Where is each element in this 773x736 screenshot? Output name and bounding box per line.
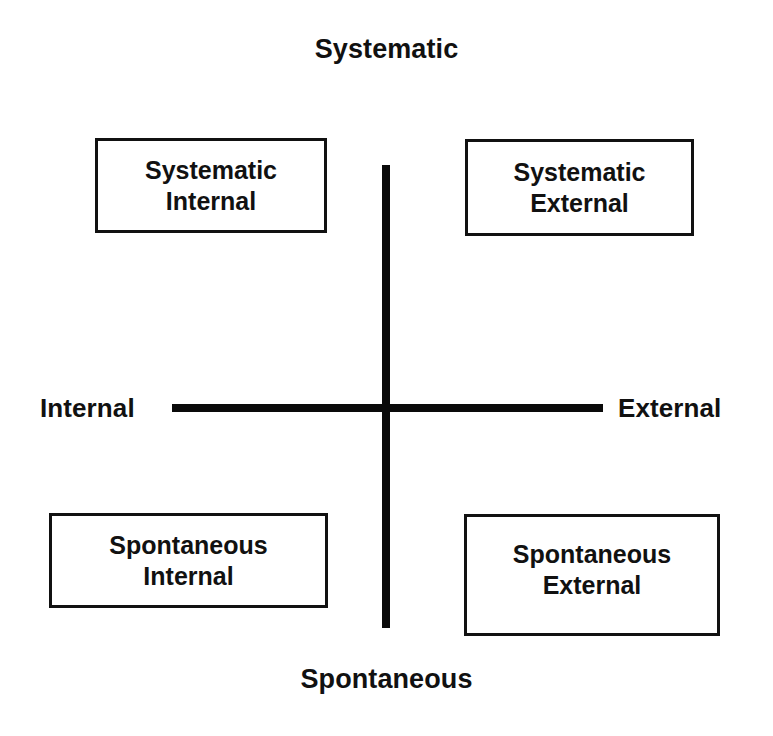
- axis-label-top: Systematic: [0, 33, 773, 65]
- quadrant-label-systematic-external: Systematic External: [507, 157, 651, 219]
- horizontal-axis-line: [172, 404, 603, 412]
- quadrant-box-systematic-external: Systematic External: [465, 139, 694, 236]
- axis-label-left: Internal: [40, 392, 135, 424]
- axis-label-right: External: [618, 392, 721, 424]
- quadrant-box-spontaneous-internal: Spontaneous Internal: [49, 513, 328, 608]
- quadrant-diagram: Systematic Spontaneous Internal External…: [0, 0, 773, 736]
- quadrant-label-spontaneous-internal: Spontaneous Internal: [103, 530, 273, 592]
- quadrant-label-systematic-internal: Systematic Internal: [139, 155, 283, 217]
- axis-label-bottom: Spontaneous: [0, 663, 773, 695]
- quadrant-label-spontaneous-external: Spontaneous External: [507, 539, 677, 601]
- vertical-axis-line: [382, 165, 390, 628]
- quadrant-box-systematic-internal: Systematic Internal: [95, 138, 327, 233]
- quadrant-box-spontaneous-external: Spontaneous External: [464, 514, 720, 636]
